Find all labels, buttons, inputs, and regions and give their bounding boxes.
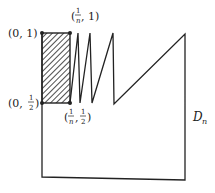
region-label-dn: D n: [192, 110, 207, 126]
svg-text:n: n: [69, 118, 74, 126]
label-point-1n-1: ( 1 n , 1): [71, 7, 99, 25]
svg-text:, 1): , 1): [81, 10, 99, 23]
svg-text:1: 1: [69, 108, 73, 116]
svg-text:(0,: (0,: [8, 97, 23, 110]
label-point-0-half: (0, 1 2 ): [8, 94, 39, 112]
svg-text:n: n: [202, 117, 207, 126]
diagram-canvas: (0, 1) (0, 1 2 ) ( 1 n , 1) ( 1 n , 1 2 …: [0, 0, 215, 193]
svg-text:1: 1: [76, 7, 80, 15]
point-0-half: [40, 101, 44, 105]
svg-text:(: (: [64, 111, 68, 124]
svg-text:2: 2: [81, 118, 85, 126]
label-point-0-1: (0, 1): [8, 27, 38, 40]
svg-text:): ): [35, 97, 39, 110]
point-1n-half: [68, 101, 72, 105]
label-point-1n-half: ( 1 n , 1 2 ): [64, 108, 91, 126]
point-0-1: [40, 31, 44, 35]
svg-text:,: ,: [75, 111, 79, 124]
svg-text:(: (: [71, 10, 75, 23]
svg-text:2: 2: [29, 104, 33, 112]
svg-text:1: 1: [81, 108, 85, 116]
svg-text:1: 1: [29, 94, 33, 102]
hatched-region: [42, 33, 70, 103]
point-1n-1: [68, 31, 72, 35]
svg-text:): ): [87, 111, 91, 124]
